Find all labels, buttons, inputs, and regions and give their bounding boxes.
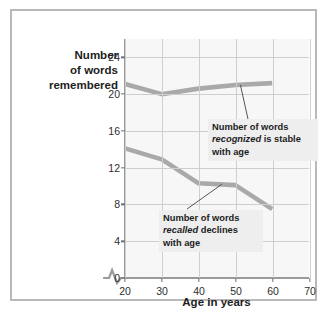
annotation-leader-lines	[12, 11, 319, 303]
figure: Number of words remembered 0481216202420…	[0, 0, 327, 310]
leader-line-recalled	[187, 184, 222, 209]
leader-line-recognized	[240, 85, 248, 119]
figure-frame: Number of words remembered 0481216202420…	[10, 9, 317, 301]
